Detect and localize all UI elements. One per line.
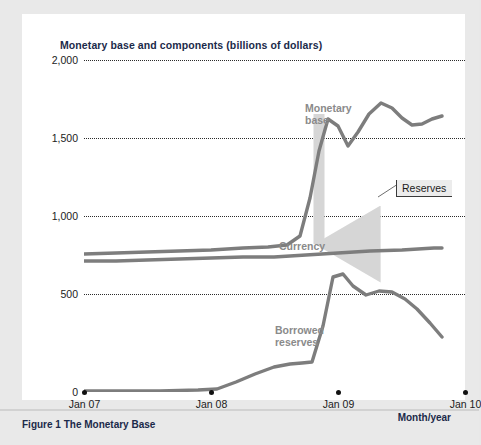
annotation-monetary-base: Monetary base (305, 102, 352, 126)
y-tick-0: 0 (72, 386, 78, 398)
series-currency (84, 248, 442, 261)
annotation-reserves-callout: Reserves (396, 180, 452, 197)
x-axis-dot-jan09 (336, 390, 341, 395)
y-tick-2000: 2,000 (52, 54, 78, 66)
figure-caption: Figure 1 The Monetary Base (22, 419, 155, 430)
chart-panel: Monetary base and components (billions o… (22, 14, 465, 400)
y-axis-tick-labels: 2,000 1,500 1,000 500 0 (30, 60, 78, 392)
figure-divider (0, 409, 479, 411)
x-axis-dot-jan10 (463, 390, 468, 395)
y-tick-500: 500 (60, 288, 78, 300)
panel-title: Monetary base and components (billions o… (60, 39, 322, 51)
x-axis-title: Month/year (398, 412, 451, 423)
x-axis-dot-jan08 (209, 390, 214, 395)
annotation-currency: Currency (279, 240, 325, 252)
y-tick-1500: 1,500 (52, 132, 78, 144)
annotation-borrowed-reserves: Borrowed reserves (275, 324, 324, 348)
reserves-leader-line (378, 184, 398, 198)
series-borrowed-reserves (84, 274, 442, 391)
x-axis-dot-jan07 (82, 390, 87, 395)
y-tick-1000: 1,000 (52, 210, 78, 222)
series-monetary-base (84, 103, 442, 254)
